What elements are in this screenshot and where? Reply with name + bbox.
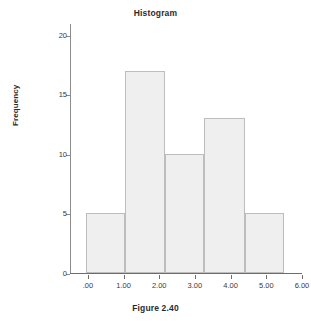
histogram-bar — [165, 154, 204, 273]
figure-caption: Figure 2.40 — [0, 303, 311, 313]
y-axis-line — [70, 24, 71, 274]
x-tick-label: 3.00 — [188, 281, 203, 290]
y-axis-title: Frequency — [11, 85, 20, 126]
x-tick-mark — [195, 275, 196, 279]
chart-title: Histogram — [0, 8, 311, 18]
x-tick-label: 1.00 — [116, 281, 131, 290]
x-tick-mark — [302, 275, 303, 279]
y-tick-label: 10 — [59, 150, 67, 159]
y-tick-label: 15 — [59, 90, 67, 99]
y-tick-label: 5 — [63, 209, 67, 218]
x-tick-mark — [88, 275, 89, 279]
histogram-bar — [245, 213, 284, 273]
y-tick-label: 0 — [63, 269, 67, 278]
x-axis-line — [70, 273, 302, 274]
x-tick-label: .00 — [83, 281, 93, 290]
y-tick-label: 20 — [59, 31, 67, 40]
histogram-bar — [86, 213, 125, 273]
x-tick-label: 6.00 — [295, 281, 310, 290]
x-tick-mark — [266, 275, 267, 279]
x-tick-label: 5.00 — [259, 281, 274, 290]
x-tick-label: 2.00 — [152, 281, 167, 290]
histogram-bar — [204, 118, 245, 273]
histogram-figure: Histogram Frequency 05101520 .001.002.00… — [0, 0, 311, 325]
x-tick-mark — [124, 275, 125, 279]
plot-area: 05101520 .001.002.003.004.005.006.00 — [70, 24, 302, 274]
x-tick-mark — [159, 275, 160, 279]
x-tick-label: 4.00 — [223, 281, 238, 290]
x-tick-mark — [231, 275, 232, 279]
histogram-bar — [125, 71, 164, 273]
